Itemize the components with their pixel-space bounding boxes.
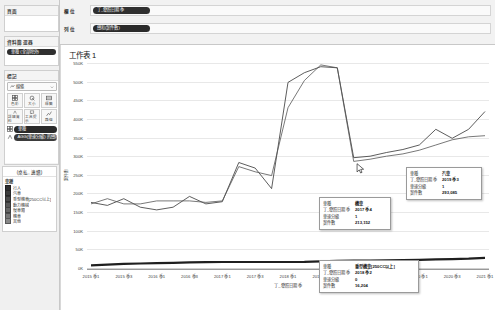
tableau-worksheet-window: 頁面 資料篩選器 車種 (全部除外) 標記 線條	[0, 0, 495, 310]
detail-encoding-icon	[7, 134, 13, 140]
color-icon	[12, 95, 18, 101]
x-axis-tick-label: 2017 季1	[214, 273, 231, 279]
series-line	[91, 258, 485, 266]
legend-field-name: 車種	[3, 177, 56, 185]
x-axis-tick-label: 2021 季1	[477, 273, 494, 279]
columns-shelf: 欄 位 丁_發照日期 季	[64, 3, 491, 18]
legend-swatch	[5, 218, 11, 224]
tooltip-value: 2017 季4	[355, 207, 372, 214]
legend-title: (桌払, 連續)	[3, 167, 56, 177]
marks-button-detail-label: 詳細資料	[8, 115, 22, 123]
mark-type-label: 線條	[16, 83, 24, 90]
worksheet-canvas: 工作表 1 案件數 0K50K100K150K200K250K300K350K4…	[60, 45, 495, 310]
tooltip-row: 案件數16,204	[323, 283, 415, 290]
tooltip-row: 案件數213,152	[323, 220, 387, 227]
marks-button-detail[interactable]: 詳細資料	[7, 109, 23, 124]
worksheet-title: 工作表 1	[61, 45, 495, 60]
x-axis-title: 丁_發照日期 季	[87, 282, 489, 288]
marks-button-tooltip-label: 工具提示	[25, 115, 39, 123]
tooltip-value: 2019 季3	[442, 177, 459, 184]
pages-card-title: 頁面	[5, 6, 58, 15]
columns-shelf-dropzone[interactable]: 丁_發照日期 季	[90, 5, 491, 16]
filters-card: 資料篩選器 車種 (全部除外)	[4, 36, 59, 66]
x-axis-tick-label: 2018 季1	[280, 273, 297, 279]
legend-item[interactable]: 其他	[5, 219, 54, 225]
marks-button-tooltip[interactable]: 工具提示	[24, 109, 40, 124]
marks-button-label[interactable]: 標籤	[41, 93, 57, 108]
y-axis-tick-label: 0K	[78, 266, 83, 271]
y-axis-tick-label: 150K	[73, 210, 83, 215]
filters-card-title: 資料篩選器	[5, 37, 58, 46]
marks-button-color[interactable]: 色彩	[7, 93, 23, 108]
filters-card-dropzone[interactable]: 車種 (全部除外)	[5, 46, 58, 65]
y-axis-tick-label: 450K	[73, 98, 83, 103]
x-axis-tick-label: 2016 季3	[181, 273, 198, 279]
tooltip-value: 293,085	[442, 190, 457, 197]
tooltip-value: 2018 季2	[355, 270, 372, 277]
marks-button-color-label: 色彩	[11, 102, 19, 106]
legend-items: 行人汽車重型機車[250CC以上]動力機械慢車類機車其他	[3, 185, 56, 224]
line-mark-icon	[10, 84, 15, 89]
y-axis-tick-label: 50K	[76, 247, 83, 252]
y-axis-tick-label: 250K	[73, 172, 83, 177]
x-axis-tick-label: 2016 季1	[148, 273, 165, 279]
marks-button-label-label: 標籤	[45, 102, 53, 106]
rows-pill-case-count[interactable]: 總和(案件數)	[93, 25, 150, 32]
marks-encoding-buttons: 色彩 大小 標籤	[7, 93, 57, 124]
marks-pill-vehicle-type[interactable]: 車種	[14, 126, 57, 133]
marks-card-title: 標記	[5, 71, 58, 80]
detail-icon	[12, 110, 18, 115]
size-icon	[29, 95, 35, 101]
rows-shelf-label: 列 位	[64, 26, 90, 32]
marks-button-size-label: 大小	[28, 102, 36, 106]
tooltip-key: 案件數	[410, 190, 440, 197]
y-axis-tick-label: 200K	[73, 191, 83, 196]
mouse-cursor-icon	[356, 163, 365, 174]
marks-button-path-label: 路徑	[45, 118, 53, 122]
y-axis-tick-label: 550K	[73, 61, 83, 66]
columns-pill-date-quarter[interactable]: 丁_發照日期 季	[93, 7, 150, 14]
x-axis-tick-label: 2015 季3	[115, 273, 132, 279]
rows-shelf: 列 位 總和(案件數)	[64, 21, 491, 36]
y-axis-tick-label: 300K	[73, 154, 83, 159]
left-sidebar: 頁面 資料篩選器 車種 (全部除外) 標記 線條	[0, 0, 60, 310]
chevron-down-icon	[50, 85, 54, 89]
tooltip-key: 案件數	[323, 283, 353, 290]
x-axis-line	[87, 269, 489, 270]
chart-series-lines	[87, 63, 489, 268]
tooltip-car: 車種汽車丁_發照日期 季2019 季3車速分級1案件數293,085	[406, 167, 482, 200]
marks-pill-speed-level[interactable]: AGG(車速分級) 的總和	[14, 134, 57, 141]
color-encoding-icon	[7, 126, 13, 132]
label-icon	[46, 95, 52, 101]
y-axis-tick-label: 500K	[73, 79, 83, 84]
x-axis-ticks: 2015 季12015 季32016 季12016 季32017 季12017 …	[87, 271, 489, 281]
tooltip-value: 16,204	[355, 283, 368, 290]
tooltip-motorcycle: 車種機車丁_發照日期 季2017 季4車速分級1案件數213,152	[319, 197, 391, 230]
tooltip-heavy-motorcycle: 車種重型機車[250CC以上]丁_發照日期 季2018 季2車速分級0案件數16…	[319, 260, 419, 293]
color-legend: (桌払, 連續) 車種 行人汽車重型機車[250CC以上]動力機械慢車類機車其他	[2, 166, 57, 232]
x-axis-tick-label: 2015 季1	[83, 273, 100, 279]
mark-type-dropdown[interactable]: 線條	[7, 82, 57, 91]
marks-button-path[interactable]: 路徑	[41, 109, 57, 124]
marks-card: 標記 線條	[4, 70, 59, 165]
marks-encoding-detail[interactable]: AGG(車速分級) 的總和	[7, 134, 57, 141]
pages-card-dropzone[interactable]	[5, 15, 58, 31]
filter-pill-vehicle-type[interactable]: 車種 (全部除外)	[7, 49, 56, 56]
legend-item-label: 其他	[13, 218, 21, 224]
pages-card: 頁面	[4, 5, 59, 32]
tooltip-value: 213,152	[355, 220, 370, 227]
marks-encoding-color[interactable]: 車種	[7, 126, 57, 133]
tooltip-icon	[29, 110, 35, 115]
tooltip-key: 案件數	[323, 220, 353, 227]
shelf-area: 欄 位 丁_發照日期 季 列 位 總和(案件數)	[60, 0, 495, 45]
marks-button-size[interactable]: 大小	[24, 93, 40, 108]
y-axis-tick-label: 100K	[73, 228, 83, 233]
y-axis-tick-label: 400K	[73, 116, 83, 121]
columns-shelf-label: 欄 位	[64, 8, 90, 14]
tooltip-row: 案件數293,085	[410, 190, 478, 197]
path-icon	[46, 111, 52, 117]
rows-shelf-dropzone[interactable]: 總和(案件數)	[90, 23, 491, 34]
x-axis-tick-label: 2017 季3	[247, 273, 264, 279]
x-axis-tick-label: 2020 季3	[444, 273, 461, 279]
y-axis-tick-label: 350K	[73, 135, 83, 140]
